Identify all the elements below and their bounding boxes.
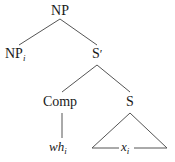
edge-np-to-s-bar bbox=[60, 19, 97, 45]
node-np-i: NPi bbox=[5, 46, 26, 63]
edge-np-to-np-i bbox=[19, 19, 60, 45]
node-s: S bbox=[126, 94, 134, 109]
node-s-bar: S′ bbox=[92, 46, 103, 61]
edge-s-bar-to-s bbox=[97, 65, 130, 92]
edge-s-bar-to-comp bbox=[62, 65, 97, 92]
node-x-i: xi bbox=[120, 139, 130, 156]
triangle-right-side bbox=[130, 113, 167, 148]
node-comp: Comp bbox=[43, 94, 77, 109]
node-root-np: NP bbox=[51, 3, 69, 18]
node-wh-i: whi bbox=[49, 139, 67, 156]
syntax-tree-diagram: NP NPi S′ Comp S whi xi bbox=[0, 0, 175, 162]
